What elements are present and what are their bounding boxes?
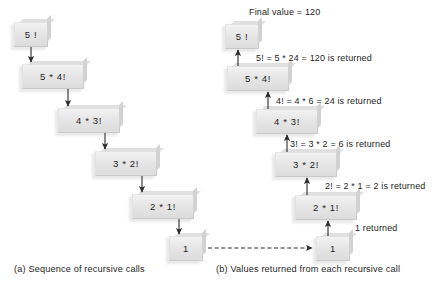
panel-a-caption: (a) Sequence of recursive calls bbox=[14, 264, 145, 274]
return-note-3-factorial: 3! = 3 * 2 = 6 is returned bbox=[290, 139, 390, 149]
final-value-note: Final value = 120 bbox=[249, 7, 320, 17]
panel-a-call-arrows bbox=[31, 47, 179, 234]
return-note-2-factorial: 2! = 2 * 1 = 2 is returned bbox=[325, 181, 425, 191]
return-note-5-factorial: 5! = 5 * 24 = 120 is returned bbox=[256, 53, 372, 63]
panel-b-caption: (b) Values returned from each recursive … bbox=[216, 264, 400, 274]
return-note-1: 1 returned bbox=[355, 223, 398, 233]
return-note-4-factorial: 4! = 4 * 6 = 24 is returned bbox=[276, 96, 382, 106]
figure-canvas: 5 ! 5 * 4! 4 * 3! 3 * 2! 2 * 1! 1 (a) Se… bbox=[0, 0, 443, 292]
